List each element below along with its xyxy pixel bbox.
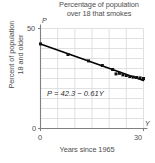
gridlines	[41, 29, 144, 129]
equation-annotation: P = 42.3 − 0.61Y	[47, 89, 104, 98]
axis-ticks	[38, 29, 144, 132]
chart-figure: Percentage of population over 18 that sm…	[0, 0, 155, 163]
plot-area	[0, 0, 155, 163]
